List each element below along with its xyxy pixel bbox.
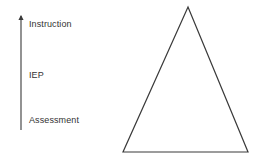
- arrow-label-instruction: Instruction: [29, 19, 72, 30]
- arrow-label-assessment: Assessment: [29, 115, 79, 126]
- diagram-canvas: Instruction IEP Assessment: [0, 0, 260, 160]
- arrow-label-iep: IEP: [29, 70, 44, 81]
- triangle-shape: [123, 7, 248, 152]
